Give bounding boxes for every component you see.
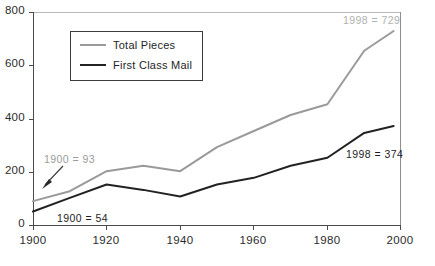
annotation-total-pieces-1998: 1998 = 729 — [343, 14, 400, 26]
annotation-total-pieces-1900: 1900 = 93 — [44, 153, 95, 165]
legend-label-total-pieces: Total Pieces — [113, 39, 175, 51]
legend-line-swatch-first-class-mail — [80, 64, 106, 66]
legend-line-swatch-total-pieces — [80, 44, 106, 46]
x-axis-label-1920: 1920 — [93, 234, 120, 246]
legend-item-total-pieces: Total Pieces — [80, 38, 175, 52]
line-chart: 800 600 400 200 0 1900 1920 1940 1960 19… — [0, 0, 435, 266]
x-axis-label-1960: 1960 — [240, 234, 267, 246]
y-axis-label-600: 600 — [5, 57, 25, 69]
x-axis-label-1940: 1940 — [167, 234, 194, 246]
x-axis-label-1980: 1980 — [314, 234, 341, 246]
annotation-first-class-mail-1900: 1900 = 54 — [57, 212, 108, 224]
annotation-first-class-mail-1998: 1998 = 374 — [346, 148, 403, 160]
chart-legend: Total Pieces First Class Mail — [70, 31, 203, 81]
legend-label-first-class-mail: First Class Mail — [113, 59, 192, 71]
y-axis-label-0: 0 — [18, 217, 25, 229]
legend-item-first-class-mail: First Class Mail — [80, 58, 192, 72]
series-line-first-class-mail — [33, 126, 394, 212]
x-axis-label-1900: 1900 — [20, 234, 47, 246]
x-axis-label-2000: 2000 — [387, 234, 414, 246]
y-axis-label-200: 200 — [5, 164, 25, 176]
y-axis-label-400: 400 — [5, 111, 25, 123]
y-axis-label-800: 800 — [5, 4, 25, 16]
